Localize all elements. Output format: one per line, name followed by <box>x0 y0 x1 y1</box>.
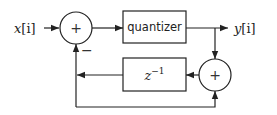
output-label: y[i] <box>233 21 256 36</box>
plus-icon: + <box>70 20 82 36</box>
quantizer-label: quantizer <box>127 20 182 34</box>
plus-icon: + <box>209 67 221 83</box>
quantizer-block: quantizer <box>123 11 186 43</box>
delta-sigma-block-diagram: x[i] + − quantizer y[i] + z−1 <box>0 0 277 115</box>
bottom-feedback-line <box>76 91 215 107</box>
minus-sign: − <box>81 42 93 58</box>
input-label: x[i] <box>14 21 36 36</box>
adder-right: + <box>199 59 231 91</box>
delay-block: z−1 <box>123 58 186 91</box>
adder-left: + <box>60 12 92 44</box>
